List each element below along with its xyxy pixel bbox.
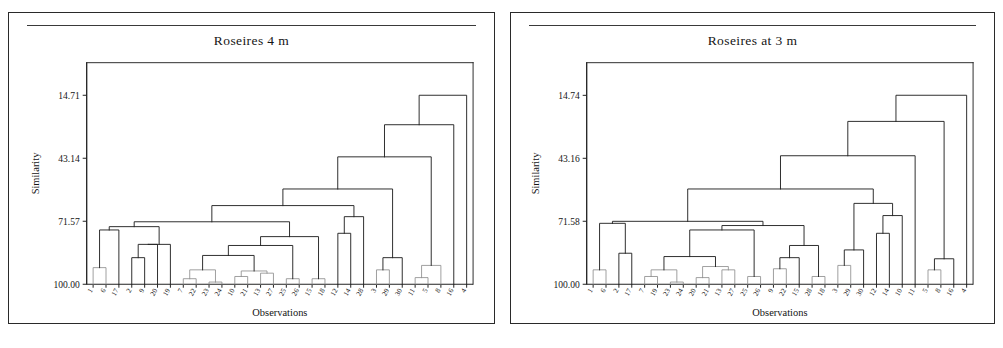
dendrogram-link (612, 221, 763, 225)
dendrogram-link (134, 222, 289, 237)
dendrogram-link (212, 206, 354, 222)
dendrogram-link (261, 237, 319, 279)
dendrogram-link (838, 265, 851, 284)
dendrogram-link (376, 270, 389, 284)
x-tick-label: 21 (700, 287, 711, 298)
dendrogram-link (286, 279, 299, 285)
x-tick-label: 14 (342, 287, 353, 298)
x-tick-label: 4 (460, 287, 469, 294)
dendrogram-link (338, 233, 351, 284)
dendrogram-links (587, 63, 973, 285)
panel-roseires-4m: Roseires 4 m 14.7143.1471.57100.00161729… (8, 12, 495, 324)
dendrogram-left: 14.7143.1471.57100.001617292019722232410… (9, 13, 494, 323)
dendrogram-link (241, 271, 267, 277)
x-tick-label: 12 (868, 287, 879, 298)
x-tick-label: 26 (290, 287, 301, 298)
dendrogram-link (780, 156, 915, 285)
x-tick-label: 25 (278, 287, 289, 298)
dendrogram-link (790, 245, 819, 276)
dendrogram-link (876, 233, 889, 284)
y-tick-label: 100.00 (553, 279, 579, 290)
x-axis-title: Observations (752, 307, 807, 318)
dendrogram-link (883, 216, 902, 285)
x-axis-title: Observations (252, 307, 307, 318)
dendrogram-link (138, 244, 157, 284)
x-tick-label: 12 (329, 287, 340, 298)
x-tick-label: 24 (675, 287, 686, 298)
dendrogram-right: 14.7443.1671.58100.001621771923242021132… (511, 13, 994, 323)
x-tick-label: 9 (766, 287, 775, 294)
x-tick-label: 16 (945, 287, 956, 298)
x-tick-label: 4 (960, 287, 969, 294)
x-tick-label: 1 (86, 287, 95, 294)
x-tick-label: 26 (752, 287, 763, 298)
x-tick-label: 2 (125, 287, 134, 294)
figure-root: Roseires 4 m 14.7143.1471.57100.00161729… (0, 0, 1003, 348)
x-tick-label: 3 (831, 287, 840, 294)
panel-roseires-3m: Roseires at 3 m 14.7443.1671.58100.00162… (510, 12, 995, 324)
dendrogram-link (190, 270, 216, 282)
dendrogram-link (722, 270, 735, 284)
x-tick-label: 23 (200, 287, 211, 298)
dendrogram-link (383, 258, 402, 285)
y-axis-title: Similarity (30, 152, 41, 194)
x-tick-label: 7 (638, 287, 647, 294)
x-tick-label: 6 (99, 287, 108, 294)
x-tick-label: 30 (855, 287, 866, 298)
dendrogram-link (688, 189, 874, 221)
dendrogram-link (619, 253, 632, 284)
x-tick-label: 13 (713, 287, 724, 298)
x-tick-label: 29 (842, 287, 853, 298)
x-tick-label: 10 (893, 287, 904, 298)
x-tick-label: 2 (612, 287, 621, 294)
x-tick-label: 15 (790, 287, 801, 298)
dendrogram-link (419, 95, 467, 284)
y-tick-label: 43.14 (58, 153, 80, 164)
x-tick-label: 1 (586, 287, 595, 294)
x-tick-label: 28 (355, 287, 366, 298)
x-tick-label: 10 (226, 287, 237, 298)
x-tick-label: 29 (381, 287, 392, 298)
y-tick-label: 43.16 (558, 153, 580, 164)
dendrogram-link (780, 258, 799, 285)
x-tick-label: 19 (649, 287, 660, 298)
dendrogram-link (109, 227, 159, 245)
y-tick-label: 71.57 (58, 216, 80, 227)
dendrogram-link (235, 276, 248, 284)
x-tick-label: 27 (265, 287, 276, 298)
x-tick-label: 8 (934, 287, 943, 294)
dendrogram-link (844, 250, 863, 284)
x-tick-label: 22 (778, 287, 789, 298)
x-tick-label: 17 (623, 287, 634, 298)
x-tick-label: 16 (445, 287, 456, 298)
dendrogram-link (415, 278, 428, 285)
x-tick-label: 18 (316, 287, 327, 298)
dendrogram-link (896, 95, 967, 284)
dendrogram-link (748, 276, 761, 284)
dendrogram-link (338, 157, 431, 266)
x-tick-label: 11 (906, 287, 917, 297)
dendrogram-link (696, 278, 709, 285)
y-axis-title: Similarity (530, 152, 541, 194)
dendrogram-link (773, 269, 786, 285)
x-tick-label: 19 (162, 287, 173, 298)
dendrogram-link (593, 270, 606, 284)
dendrogram-link (261, 273, 274, 284)
x-tick-label: 28 (803, 287, 814, 298)
dendrogram-link (703, 267, 729, 278)
dendrogram-link (651, 270, 677, 282)
x-tick-label: 15 (303, 287, 314, 298)
dendrogram-link (344, 217, 363, 285)
dendrogram-link (600, 223, 626, 270)
x-tick-label: 6 (599, 287, 608, 294)
x-tick-label: 7 (176, 287, 185, 294)
y-tick-label: 100.00 (53, 279, 79, 290)
x-tick-label: 18 (816, 287, 827, 298)
x-tick-label: 14 (881, 287, 892, 298)
x-tick-label: 20 (687, 287, 698, 298)
x-tick-label: 3 (369, 287, 378, 294)
dendrogram-link (645, 276, 658, 284)
dendrogram-link (812, 276, 825, 284)
x-tick-label: 11 (406, 287, 417, 297)
dendrogram-link (148, 244, 171, 284)
